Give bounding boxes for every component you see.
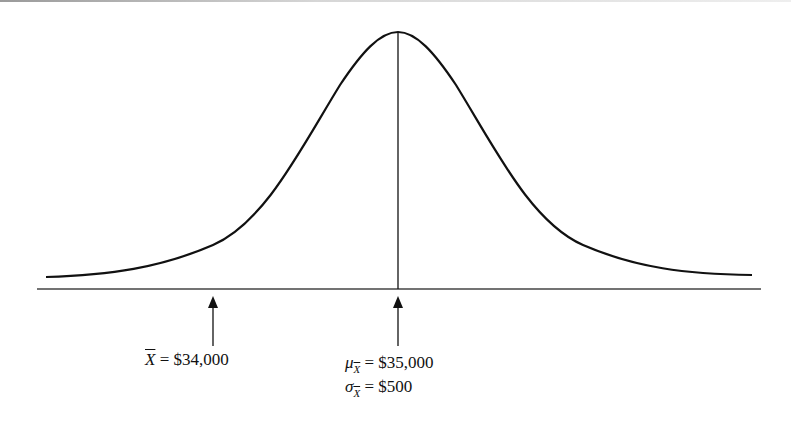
sigma-value: = $500 bbox=[360, 377, 412, 396]
arrow-up-icon bbox=[393, 296, 403, 346]
bell-curve bbox=[46, 32, 752, 277]
mu-value: = $35,000 bbox=[360, 353, 433, 372]
x-bar-symbol: X bbox=[145, 350, 155, 369]
mu-subscript: X bbox=[354, 363, 361, 375]
population-mean-label: μX = $35,000 bbox=[345, 353, 434, 374]
sample-mean-value: = $34,000 bbox=[155, 350, 228, 369]
arrow-up-icon bbox=[208, 296, 218, 346]
mu-symbol: μ bbox=[345, 353, 354, 372]
sigma-subscript: X bbox=[353, 387, 360, 399]
standard-error-label: σX = $500 bbox=[345, 377, 412, 398]
sample-mean-label: X = $34,000 bbox=[145, 350, 229, 370]
